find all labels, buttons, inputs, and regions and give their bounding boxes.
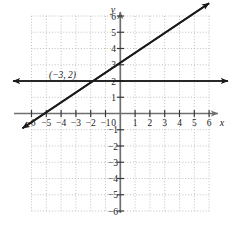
x-tick-label: 3 [162,118,167,128]
y-tick-label: −3 [108,158,118,168]
x-tick-label: 6 [207,118,212,128]
x-tick-label: −4 [56,118,66,128]
x-axis-name: x [219,117,225,128]
x-tick-label: 5 [192,118,197,128]
y-tick-label: 5 [111,28,116,38]
y-axis-name: y [110,4,116,15]
origin-label: 0 [111,118,116,128]
y-tick-label: −5 [108,190,118,200]
x-tick-labels: −6 −5 −4 −3 −2 −1 1 2 3 4 5 6 [25,118,211,128]
x-tick-label: −2 [86,118,96,128]
x-tick-label: −3 [71,118,81,128]
graph-canvas: −6 −5 −4 −3 −2 −1 1 2 3 4 5 6 6 5 4 3 2 … [0,0,238,227]
y-tick-label: −4 [108,174,118,184]
x-tick-label: 2 [148,118,153,128]
x-tick-label: 4 [177,118,182,128]
x-tick-label: −5 [41,118,51,128]
y-tick-label: −6 [108,207,118,217]
coordinate-plane-figure: −6 −5 −4 −3 −2 −1 1 2 3 4 5 6 6 5 4 3 2 … [0,0,238,227]
y-tick-label: 4 [111,44,116,54]
y-tick-label: −2 [108,142,118,152]
slanted-line-lower-arrow [23,3,210,128]
intersection-point-label: (−3, 2) [49,70,76,81]
x-tick-label: 1 [133,118,138,128]
y-tick-label: 1 [111,93,116,103]
